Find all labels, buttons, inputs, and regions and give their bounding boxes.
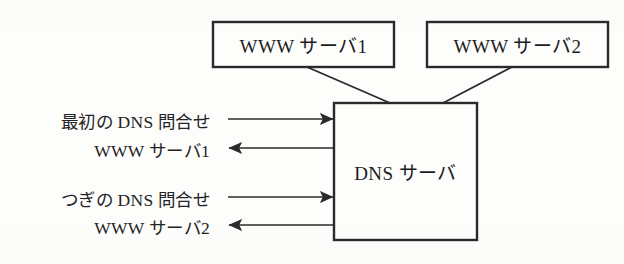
diagram-canvas xyxy=(0,0,624,264)
connector-www-server-2-to-dns-server xyxy=(443,67,512,103)
dns-round-robin-diagram: WWW サーバ1 WWW サーバ2 DNS サーバ 最初の DNS 問合せ WW… xyxy=(0,0,624,264)
www-server-2-box xyxy=(427,22,608,67)
dns-server-box xyxy=(334,103,477,240)
connector-www-server-1-to-dns-server xyxy=(307,67,390,103)
www-server-1-box xyxy=(213,22,394,67)
